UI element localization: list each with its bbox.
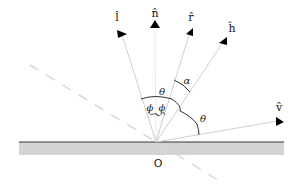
arrowhead-v-icon [276,117,284,126]
label-v: v̂ [275,101,283,114]
label-alpha: α [184,75,191,86]
label-phi-left: ϕ [147,102,154,113]
arrowhead-h-icon [219,37,227,45]
arrowhead-n-icon [150,20,160,28]
arrowhead-l-icon [117,30,127,38]
ray-n [155,30,156,142]
ray-v [156,121,278,142]
label-n: n̂ [151,7,158,20]
label-l: l̂ [115,11,119,24]
surface-band [19,142,284,155]
label-h: ĥ [227,21,235,35]
reflection-diagram: l̂ n̂ r̂ ĥ v̂ θ θ α ϕ ϕ O [0,0,297,184]
label-r: r̂ [188,11,194,24]
label-theta-right: θ [200,113,206,124]
label-theta-top: θ [159,86,165,97]
origin-label: O [154,157,163,170]
fan-line [156,112,164,142]
ray-h [156,44,222,142]
label-phi-right: ϕ [159,102,166,113]
arrowhead-r-icon [186,28,193,36]
